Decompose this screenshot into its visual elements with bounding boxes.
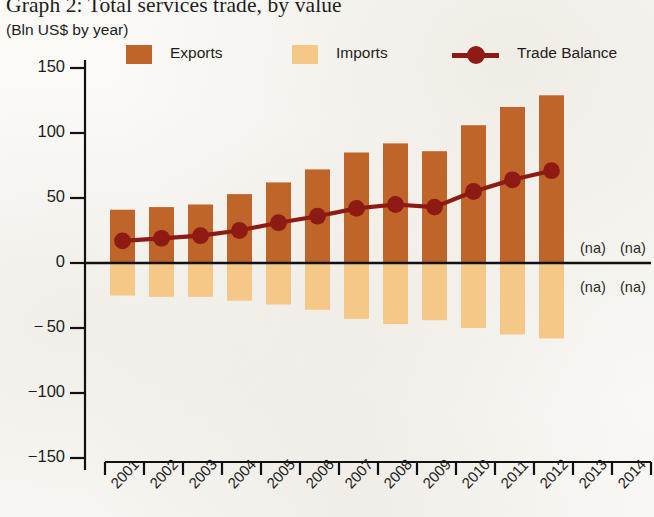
exports-bar [539,95,564,263]
na-label: (na) [620,240,646,256]
y-axis-tick-label: 0 [7,252,65,271]
trade-balance-point [114,233,131,250]
imports-bar [539,263,564,338]
imports-bar [383,263,408,324]
trade-balance-point [270,214,287,231]
trade-balance-point [231,222,248,239]
trade-balance-line-group [114,162,560,249]
chart-figure: Graph 2: Total services trade, by value … [0,0,654,517]
trade-balance-point [543,162,560,179]
trade-balance-point [153,230,170,247]
trade-balance-point [465,183,482,200]
trade-balance-point [309,208,326,225]
y-axis-tick-label: −150 [7,447,65,466]
imports-bar [344,263,369,319]
trade-balance-point [426,199,443,216]
trade-balance-point [348,200,365,217]
plot-canvas [0,0,654,517]
na-label: (na) [580,240,606,256]
imports-bar [188,263,213,297]
imports-bar [422,263,447,320]
trade-balance-point [387,196,404,213]
y-axis-tick-label: 150 [7,57,65,76]
na-label: (na) [620,279,646,295]
imports-bar [149,263,174,297]
imports-bar [500,263,525,335]
trade-balance-point [192,227,209,244]
y-axis-tick-label: −100 [7,382,65,401]
imports-bar [266,263,291,305]
na-label: (na) [580,279,606,295]
y-axis-tick-label: 50 [7,187,65,206]
imports-bar [110,263,135,296]
imports-bar [305,263,330,310]
imports-bar-group [110,263,564,338]
y-axis-tick-label: 100 [7,122,65,141]
y-axis-tick-label: − 50 [7,317,65,336]
imports-bar [227,263,252,301]
imports-bar [461,263,486,328]
trade-balance-point [504,171,521,188]
plot-area: 150100500− 50−100−150 200120022003200420… [0,0,654,517]
